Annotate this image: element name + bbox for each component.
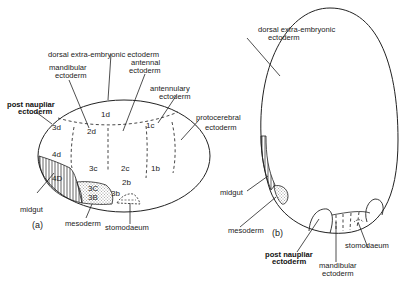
label-protocerebral-1: protocerebral	[196, 113, 241, 122]
label-dorsal-extra-embryonic-b-2: ectoderm	[268, 33, 300, 42]
label-midgut-b: midgut	[220, 188, 244, 197]
label-mandibular-b-2: ectoderm	[322, 269, 354, 278]
cell-3b: 3b	[111, 189, 120, 198]
cell-2b: 2b	[122, 178, 131, 187]
panel-b-tag: (b)	[272, 228, 283, 238]
cell-4d: 4d	[52, 150, 61, 159]
cell-3B: 3B	[88, 193, 98, 202]
mesoderm-blob-b	[274, 185, 288, 204]
label-stomodaeum-b: stomodaeum	[345, 241, 389, 250]
label-mesoderm-b: mesoderm	[228, 226, 264, 235]
label-post-naupliar-b-2: ectoderm	[272, 257, 306, 266]
embryo-fate-map-figure: dorsal extra-embryonic ectoderm mandibul…	[0, 0, 403, 282]
cell-1c: 1c	[146, 121, 154, 130]
panel-b	[240, 8, 398, 262]
panel-a-tag: (a)	[32, 220, 43, 230]
cell-4D: 4D	[52, 174, 62, 183]
cell-2c: 2c	[121, 164, 129, 173]
anterior-bulge	[366, 199, 383, 222]
cell-1d: 1d	[101, 110, 110, 119]
label-post-naupliar-a-2: ectoderm	[18, 107, 52, 116]
cell-3d: 3d	[52, 123, 61, 132]
label-antennal-2: ectoderm	[129, 66, 161, 75]
label-stomodaeum-a: stomodaeum	[105, 223, 149, 232]
label-midgut-a: midgut	[20, 205, 44, 214]
cell-3c: 3c	[89, 164, 97, 173]
stomodaeum-region	[117, 194, 140, 204]
cell-1b: 1b	[151, 164, 160, 173]
cell-2d: 2d	[87, 127, 96, 136]
label-antennulary-2: ectoderm	[159, 92, 191, 101]
cell-3C: 3C	[88, 184, 98, 193]
label-mesoderm-a: mesoderm	[65, 219, 101, 228]
label-protocerebral-2: ectoderm	[205, 123, 237, 132]
label-mandibular-a-2: ectoderm	[55, 71, 87, 80]
